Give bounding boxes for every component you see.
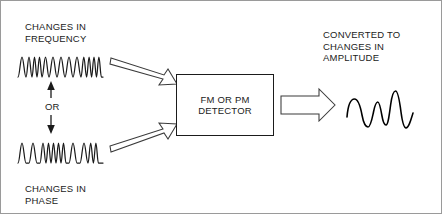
arrow-pm-to-detector — [110, 123, 177, 152]
diagram-canvas: CHANGES IN FREQUENCY CHANGES IN PHASE CO… — [0, 0, 442, 214]
fm-pm-detector-block: FM OR PM DETECTOR — [176, 74, 274, 136]
amplitude-modulated-wave — [345, 87, 417, 137]
arrow-fm-to-detector — [110, 58, 177, 85]
fm-pm-detector-label: FM OR PM DETECTOR — [198, 94, 252, 117]
arrow-detector-to-output — [281, 89, 335, 121]
am-wave-svg — [345, 87, 417, 133]
